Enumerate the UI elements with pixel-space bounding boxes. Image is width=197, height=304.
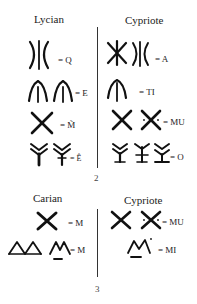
value-mu-2: = MU [162,217,184,227]
value-m-tilde: = M̃ [60,120,75,130]
carian-m-double-triangle-sign-icon [8,240,42,256]
cypriote-o-sign-2-icon [132,142,152,164]
lycian-m-tilde-sign-icon [30,111,54,135]
cypriote-mu-sign-2-icon [139,210,163,230]
value-a: = A [155,54,168,64]
cypriote-ti-sign-icon [106,78,128,102]
column-divider-2 [97,209,98,277]
heading-carian: Carian [33,192,62,204]
lycian-e-hat-sign-1-icon [29,142,49,166]
cypriote-mu-sign-1-icon [111,109,133,131]
lycian-e-hat-sign-2-icon [52,142,72,166]
value-m-carian: = M [68,218,83,228]
value-mu: = MU [163,117,185,127]
value-q: = Q [58,55,72,65]
value-e: = E [75,88,88,98]
carian-m-sign-icon [36,211,58,231]
cypriote-mi-sign-icon [126,238,152,260]
cypriote-mu-sign-1-icon [110,210,132,230]
value-m-carian-2: = M [70,245,85,255]
cypriote-a-bracket-sign-icon [131,41,151,67]
lycian-e-sign-1-icon [27,79,49,103]
cypriote-a-asterisk-sign-icon [106,40,128,66]
figure-number-2: 2 [94,173,99,183]
heading-cypriote: Cypriote [125,14,164,26]
carian-m-underlined-sign-icon [48,240,72,262]
value-o: = O [170,152,184,162]
value-e-hat: = Ê [70,154,81,163]
lycian-e-sign-2-icon [52,79,74,103]
cypriote-mu-sign-2-icon [139,109,163,131]
figure-number-3: 3 [95,284,100,294]
cypriote-o-sign-3-icon [152,142,172,164]
lycian-q-sign-icon [27,40,51,70]
heading-lycian: Lycian [34,13,64,25]
column-divider [97,27,98,168]
value-ti: = TI [139,87,155,97]
cypriote-o-sign-1-icon [110,142,130,164]
heading-cypriote-2: Cypriote [124,194,163,206]
value-mi: = MI [158,245,176,255]
